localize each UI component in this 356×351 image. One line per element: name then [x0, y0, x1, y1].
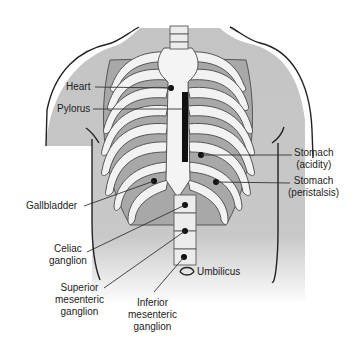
sternum-bar-marker [182, 92, 188, 162]
label-celiac-line1: Celiac [49, 243, 87, 255]
label-superior-line1: Superior [55, 282, 104, 294]
label-heart: Heart [66, 81, 90, 93]
label-umbilicus: Umbilicus [197, 266, 240, 278]
label-stomach-acidity-line1: Stomach [294, 147, 333, 159]
label-superior-line3: ganglion [55, 306, 104, 318]
label-superior-line2: mesenteric [55, 294, 104, 306]
label-inferior-line1: Inferior [128, 297, 177, 309]
label-stomach-peristalsis: Stomach (peristalsis) [288, 175, 339, 199]
label-pylorus: Pylorus [57, 103, 90, 115]
label-gallbladder: Gallbladder [26, 200, 77, 212]
label-celiac-line2: ganglion [49, 255, 87, 267]
label-celiac-ganglion: Celiac ganglion [49, 243, 87, 267]
label-stomach-acidity: Stomach (acidity) [294, 147, 333, 171]
label-superior-mesenteric-ganglion: Superior mesenteric ganglion [55, 282, 104, 318]
label-stomach-acidity-line2: (acidity) [294, 159, 333, 171]
label-stomach-peristalsis-line1: Stomach [288, 175, 339, 187]
label-inferior-mesenteric-ganglion: Inferior mesenteric ganglion [128, 297, 177, 333]
label-inferior-line2: mesenteric [128, 309, 177, 321]
label-inferior-line3: ganglion [128, 321, 177, 333]
label-stomach-peristalsis-line2: (peristalsis) [288, 187, 339, 199]
